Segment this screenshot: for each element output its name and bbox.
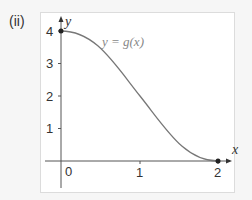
curve-g <box>61 31 218 161</box>
y-axis-label: y <box>63 14 72 29</box>
point-2-0 <box>216 159 221 164</box>
y-axis-arrow-icon <box>59 16 64 22</box>
y-tick-label-2: 2 <box>46 89 53 104</box>
y-tick-label-4: 4 <box>46 24 53 39</box>
x-axis-arrow-icon <box>226 159 232 164</box>
y-tick-label-1: 1 <box>46 121 53 136</box>
x-axis-label: x <box>231 142 239 157</box>
x-tick-label-0: 0 <box>65 164 72 179</box>
curve-label: y = g(x) <box>100 34 144 49</box>
y-tick-label-3: 3 <box>46 56 53 71</box>
point-0-4 <box>59 29 64 34</box>
x-tick-label-1: 1 <box>136 165 143 180</box>
chart: 1 2 3 4 0 1 2 y x y = g(x) <box>0 0 252 200</box>
x-tick-label-2: 2 <box>214 165 221 180</box>
